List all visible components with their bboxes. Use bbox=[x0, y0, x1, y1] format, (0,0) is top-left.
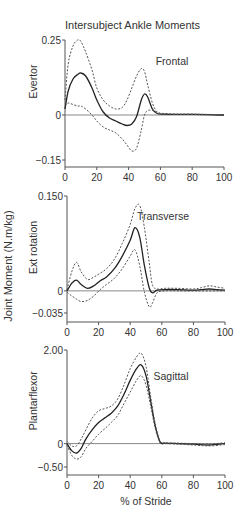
frontal-x-tick-label: 100 bbox=[216, 172, 233, 183]
frontal-y-tick-label: 0 bbox=[55, 110, 61, 121]
sagittal-x-tick-label: 40 bbox=[125, 480, 137, 491]
shared-y-axis-label: Joint Moment (N.m/kg) bbox=[2, 210, 14, 321]
frontal-panel-title: Frontal bbox=[156, 55, 189, 67]
transverse-y-tick-label: 0 bbox=[57, 286, 63, 297]
frontal-x-tick-label: 0 bbox=[62, 172, 68, 183]
sagittal-panel-title: Sagittal bbox=[153, 370, 188, 382]
transverse-y-axis-label: Ext rotation bbox=[27, 221, 39, 274]
transverse-x-tick-label: 20 bbox=[93, 327, 105, 338]
transverse-plot: 0.1500−0.035020406080100TransverseExt ro… bbox=[27, 191, 234, 338]
sagittal-y-axis-label: Plantarflexor bbox=[27, 371, 39, 430]
sagittal-x-tick-label: 60 bbox=[156, 480, 168, 491]
frontal-sd-line bbox=[65, 103, 224, 151]
ankle-moments-figure: Intersubject Ankle Moments Joint Moment … bbox=[0, 0, 252, 529]
transverse-x-tick-label: 60 bbox=[156, 327, 168, 338]
sagittal-y-tick-label: 0 bbox=[57, 439, 63, 450]
frontal-x-tick-label: 20 bbox=[91, 172, 103, 183]
sagittal-y-tick-label: 2.00 bbox=[44, 345, 64, 356]
transverse-y-tick-label: 0.150 bbox=[38, 191, 63, 202]
frontal-y-axis-label: Evertor bbox=[27, 64, 39, 98]
sagittal-x-tick-label: 100 bbox=[217, 480, 234, 491]
x-axis-label: % of Stride bbox=[120, 495, 172, 507]
frontal-y-tick-label: 0.25 bbox=[42, 35, 62, 46]
sagittal-x-tick-label: 20 bbox=[93, 480, 105, 491]
sagittal-x-tick-label: 80 bbox=[188, 480, 200, 491]
transverse-sd-line bbox=[67, 249, 225, 307]
frontal-mean-line bbox=[65, 73, 224, 126]
frontal-x-tick-label: 40 bbox=[123, 172, 135, 183]
transverse-mean-line bbox=[67, 228, 225, 293]
transverse-x-tick-label: 0 bbox=[64, 327, 70, 338]
sagittal-x-tick-label: 0 bbox=[64, 480, 70, 491]
figure-title: Intersubject Ankle Moments bbox=[65, 19, 201, 31]
frontal-sd-line bbox=[65, 40, 224, 115]
transverse-x-tick-label: 80 bbox=[188, 327, 200, 338]
transverse-y-tick-label: −0.035 bbox=[32, 308, 63, 319]
frontal-x-tick-label: 60 bbox=[155, 172, 167, 183]
frontal-y-tick-label: −0.15 bbox=[36, 155, 62, 166]
transverse-x-tick-label: 100 bbox=[217, 327, 234, 338]
sagittal-sd-line bbox=[67, 376, 225, 459]
sagittal-plot: 2.000−0.50020406080100SagittalPlantarfle… bbox=[27, 345, 234, 507]
transverse-panel-title: Transverse bbox=[137, 210, 189, 222]
sagittal-y-tick-label: −0.50 bbox=[38, 462, 64, 473]
sagittal-mean-line bbox=[67, 365, 225, 453]
transverse-x-tick-label: 40 bbox=[125, 327, 137, 338]
frontal-x-tick-label: 80 bbox=[187, 172, 199, 183]
frontal-plot: 0.250−0.15020406080100FrontalEvertor bbox=[27, 35, 233, 183]
